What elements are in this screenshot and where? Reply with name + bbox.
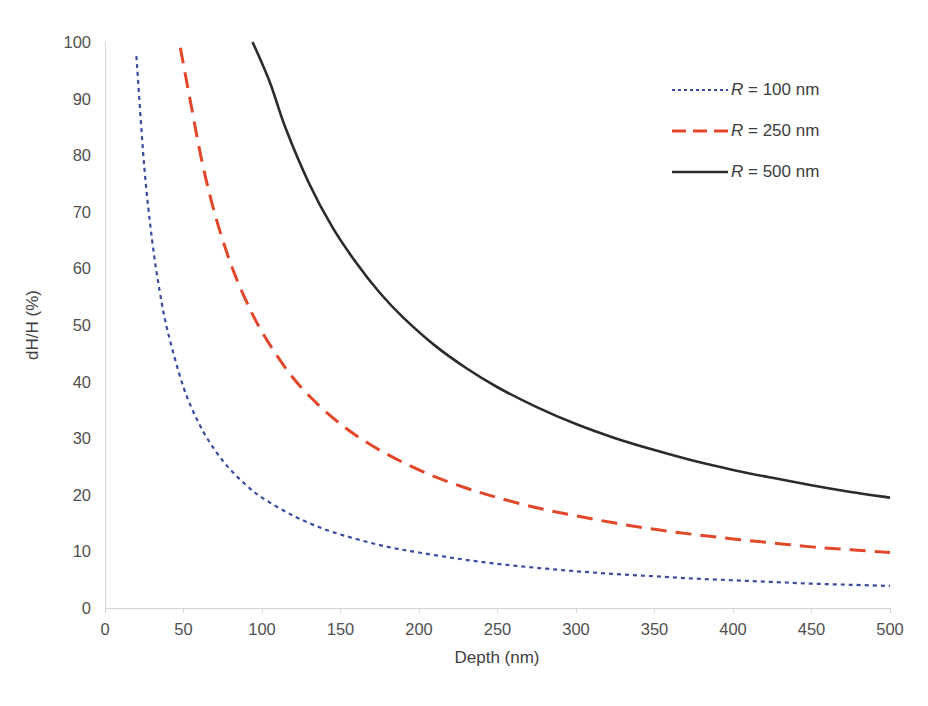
legend-value: = 500 nm <box>743 162 819 181</box>
legend-value: = 100 nm <box>743 80 819 99</box>
x-tick-label: 500 <box>876 620 904 638</box>
legend-value: = 250 nm <box>743 121 819 140</box>
y-axis-title: dH/H (%) <box>23 290 42 360</box>
x-tick-label: 50 <box>174 620 192 638</box>
x-tick-label: 300 <box>562 620 590 638</box>
y-tick-label: 90 <box>73 90 91 108</box>
x-axis-title: Depth (nm) <box>454 648 539 667</box>
x-axis-ticks: 050100150200250300350400450500 <box>100 608 903 638</box>
legend-label-1: R = 250 nm <box>731 121 819 140</box>
y-tick-label: 60 <box>73 259 91 277</box>
legend-symbol: R <box>731 80 743 99</box>
y-tick-label: 50 <box>73 316 91 334</box>
x-tick-label: 450 <box>798 620 826 638</box>
x-tick-label: 400 <box>719 620 747 638</box>
y-tick-label: 80 <box>73 146 91 164</box>
legend-label-0: R = 100 nm <box>731 80 819 99</box>
chart-legend: R = 100 nmR = 250 nmR = 500 nm <box>672 80 819 181</box>
y-tick-label: 100 <box>63 33 91 51</box>
line-chart: 0102030405060708090100 05010015020025030… <box>0 0 928 706</box>
y-tick-label: 0 <box>82 599 91 617</box>
x-tick-label: 350 <box>641 620 669 638</box>
y-tick-label: 30 <box>73 429 91 447</box>
legend-symbol: R <box>731 121 743 140</box>
x-tick-label: 100 <box>248 620 276 638</box>
y-axis-ticks: 0102030405060708090100 <box>63 33 91 617</box>
y-tick-label: 10 <box>73 542 91 560</box>
y-tick-label: 40 <box>73 373 91 391</box>
x-tick-label: 250 <box>484 620 512 638</box>
legend-symbol: R <box>731 162 743 181</box>
y-tick-label: 70 <box>73 203 91 221</box>
x-tick-label: 200 <box>405 620 433 638</box>
legend-label-2: R = 500 nm <box>731 162 819 181</box>
chart-container: 0102030405060708090100 05010015020025030… <box>0 0 928 706</box>
y-tick-label: 20 <box>73 486 91 504</box>
x-tick-label: 0 <box>100 620 109 638</box>
x-tick-label: 150 <box>327 620 355 638</box>
